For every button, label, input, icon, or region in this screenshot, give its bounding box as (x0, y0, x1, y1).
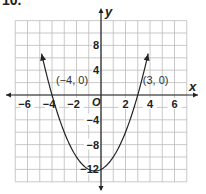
y-tick-label: 8 (93, 39, 99, 51)
curve-arrow-icon (40, 54, 46, 61)
y-tick-label: 4 (93, 64, 100, 76)
y-tick-label: −8 (86, 139, 99, 151)
origin-label: O (92, 96, 101, 108)
y-axis-up-arrow-icon (99, 8, 104, 13)
y-axis-down-arrow-icon (99, 186, 104, 191)
x-tick-label: 2 (122, 98, 128, 110)
y-tick-label: −4 (86, 114, 99, 126)
parabola-graph: xyO−6−4−224684−4−8−12(−4, 0)(3, 0) (0, 0, 206, 194)
x-tick-label: −6 (18, 98, 31, 110)
x-tick-label: −2 (67, 98, 80, 110)
x-axis-left-arrow-icon (6, 93, 11, 98)
curve-arrow-icon (144, 54, 150, 61)
y-axis-label: y (104, 4, 113, 19)
x-axis-label: x (188, 79, 197, 94)
x-tick-label: 4 (147, 98, 154, 110)
point-label-3-0: (3, 0) (143, 74, 169, 86)
x-tick-label: 6 (171, 98, 177, 110)
point-label-neg4-0: (−4, 0) (56, 74, 88, 86)
